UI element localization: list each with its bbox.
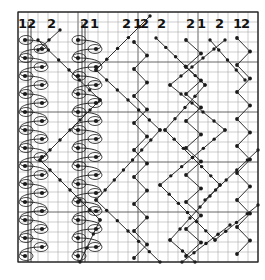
stitch-dot (78, 118, 81, 121)
stitch-dot (76, 92, 80, 96)
stitch-dot (132, 94, 136, 98)
stitch-dot (168, 238, 171, 241)
stitch-dot (94, 83, 98, 87)
stitch-dot (76, 128, 80, 132)
stitch-dot (199, 241, 203, 245)
stitch-dot (48, 148, 51, 151)
stitch-dot (184, 200, 188, 204)
stitch-dot (132, 175, 136, 179)
stitch-dot (23, 182, 27, 186)
stitch-dot (132, 67, 136, 71)
stitch-dot (169, 174, 172, 177)
stitch-dot (36, 48, 39, 51)
stitch-dot (173, 117, 176, 120)
stitch-dot (199, 214, 203, 218)
stitch-dot (203, 198, 206, 201)
stitch-dot (92, 232, 95, 235)
column-label: 2 (215, 17, 224, 30)
column-label: 2 (122, 17, 131, 30)
stitch-dot (167, 192, 170, 195)
stitch-dot (40, 119, 44, 123)
stitch-dot (40, 83, 44, 87)
stitch-dot (248, 50, 252, 54)
stitch-dot (78, 198, 81, 201)
stitch-dot (145, 81, 149, 85)
stitch-dot (132, 121, 136, 125)
stitch-dot (204, 229, 207, 232)
stitch-dot (235, 168, 238, 171)
stitch-dot (209, 174, 212, 177)
stitch-dot (199, 79, 203, 83)
stitch-dot (23, 38, 27, 42)
stitch-dot (246, 212, 249, 215)
stitch-dot (158, 183, 161, 186)
stitch-dot (76, 146, 80, 150)
stitch-dot (76, 182, 80, 186)
stitch-dot (190, 65, 193, 68)
column-label: 2 (27, 17, 36, 30)
stitch-dot (179, 74, 182, 77)
stitch-dot (199, 187, 203, 191)
stitch-dot (202, 147, 205, 150)
stitch-dot (184, 65, 187, 68)
stitch-dot (145, 162, 149, 166)
stitch-dot (184, 254, 188, 258)
stitch-dot (23, 236, 27, 240)
stitch-dot (145, 108, 149, 112)
stitch-dot (172, 137, 175, 140)
stitch-dot (213, 238, 216, 241)
stitch-dot (191, 156, 194, 159)
stitch-dot (94, 227, 98, 231)
stitch-dot (132, 40, 136, 44)
stitch-dot (212, 137, 215, 140)
stitch-dot (145, 243, 149, 247)
stitch-dot (40, 137, 44, 141)
stitch-dot (145, 54, 149, 58)
stitch-dot (200, 165, 203, 168)
stitch-dot (145, 135, 149, 139)
stitch-dot (246, 158, 249, 161)
stitch-dot (199, 133, 203, 137)
stitch-dot (218, 183, 221, 186)
column-label: 2 (241, 17, 250, 30)
stitch-dot (94, 137, 98, 141)
stitch-dot (94, 68, 97, 71)
stitch-dot (216, 233, 219, 236)
stitch-dot (235, 36, 239, 40)
stitch-dot (198, 205, 201, 208)
stitch-dot (148, 118, 151, 121)
stitch-dot (182, 147, 185, 150)
stitch-dot (57, 58, 60, 61)
stitch-dot (149, 138, 152, 141)
stitch-dot (137, 108, 140, 111)
stitch-dot (94, 198, 97, 201)
stitch-dot (148, 250, 151, 253)
stitch-dot (47, 48, 50, 51)
stitch-dot (94, 101, 98, 105)
stitch-dot (183, 106, 186, 109)
stitch-dot (113, 178, 116, 181)
stitch-dot (235, 63, 239, 67)
stitch-dot (116, 88, 119, 91)
stitch-dot (248, 104, 252, 108)
stitch-dot (235, 198, 239, 202)
column-label: 2 (186, 17, 195, 30)
stitch-dot (228, 223, 231, 226)
stitch-dot (235, 90, 239, 94)
stitch-dot (127, 36, 130, 39)
stitch-dot (58, 28, 61, 31)
stitch-dot (235, 252, 239, 256)
stitch-dot (94, 47, 98, 51)
stitch-dot (85, 246, 88, 249)
column-label: 1 (18, 17, 27, 30)
stitch-dot (103, 188, 106, 191)
stitch-dot (217, 48, 220, 51)
stitch-dot (186, 211, 189, 214)
stitch-dot (76, 236, 80, 240)
stitch-dot (208, 194, 211, 197)
stitch-dot (40, 227, 44, 231)
stitch-dot (199, 160, 203, 164)
stitch-dot (235, 68, 238, 71)
stitch-dot (105, 58, 108, 61)
stitch-dot (122, 168, 125, 171)
